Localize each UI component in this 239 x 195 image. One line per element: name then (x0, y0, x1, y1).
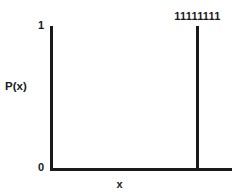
y-axis-tick-label-min: 0 (28, 162, 44, 173)
spike-value-label: 11111111 (174, 11, 220, 22)
probability-spike-bar (196, 26, 199, 168)
probability-distribution-chart: 11111111 1 0 P(x) x (0, 0, 239, 195)
y-axis-tick-label-max: 1 (28, 20, 44, 31)
x-axis-title: x (0, 179, 239, 190)
x-axis-line (50, 168, 232, 171)
y-axis-line (50, 26, 53, 171)
y-axis-title: P(x) (5, 81, 27, 93)
